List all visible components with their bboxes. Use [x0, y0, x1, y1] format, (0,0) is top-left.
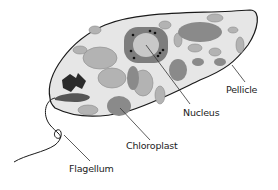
- label-flagellum: Flagellum: [69, 163, 114, 174]
- label-nucleus: Nucleus: [183, 107, 219, 118]
- euglena-diagram: Pellicle Nucleus Chloroplast Flagellum: [0, 0, 278, 190]
- label-chloroplast: Chloroplast: [126, 140, 178, 151]
- label-pellicle: Pellicle: [226, 84, 257, 95]
- chloroplast-shape: [107, 96, 131, 116]
- euglena-cell-illustration: [0, 0, 278, 190]
